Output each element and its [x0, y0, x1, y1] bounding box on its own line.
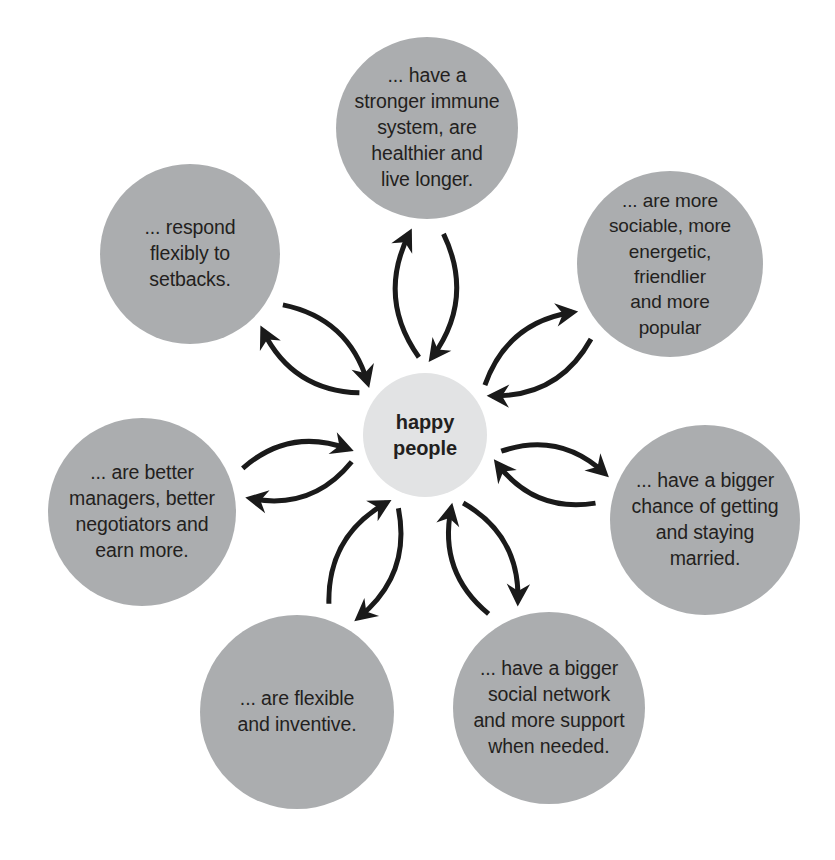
diagram-canvas: ... have a stronger immune system, are h…	[0, 0, 835, 860]
arrow-outward	[395, 234, 419, 358]
node-label: ... are better managers, better negotiat…	[55, 460, 229, 564]
hub-label: happy people	[385, 409, 465, 461]
node-managers-earnings[interactable]: ... are better managers, better negotiat…	[48, 418, 236, 606]
arrow-inward	[243, 441, 349, 468]
node-label: ... are more sociable, more energetic, f…	[577, 188, 763, 340]
node-immune-system[interactable]: ... have a stronger immune system, are h…	[336, 37, 518, 219]
node-label: ... are flexible and inventive.	[224, 686, 371, 738]
node-flexible-inventive[interactable]: ... are flexible and inventive.	[200, 615, 394, 809]
node-label: ... have a bigger social network and mor…	[459, 656, 638, 760]
arrow-outward	[251, 462, 352, 501]
arrow-outward	[501, 445, 604, 473]
node-marriage[interactable]: ... have a bigger chance of getting and …	[610, 425, 800, 615]
node-label: ... respond flexibly to setbacks.	[130, 215, 249, 293]
arrow-inward	[432, 234, 457, 357]
node-label: ... have a stronger immune system, are h…	[341, 63, 514, 193]
node-social-network[interactable]: ... have a bigger social network and mor…	[453, 612, 645, 804]
arrow-inward	[497, 464, 595, 505]
node-happy-people-hub[interactable]: happy people	[363, 373, 487, 497]
node-label: ... have a bigger chance of getting and …	[618, 468, 793, 572]
arrow-outward	[359, 508, 401, 617]
arrow-outward	[463, 503, 518, 601]
node-sociable[interactable]: ... are more sociable, more energetic, f…	[577, 171, 763, 357]
node-respond-to-setbacks[interactable]: ... respond flexibly to setbacks.	[100, 164, 280, 344]
arrow-inward	[448, 509, 488, 614]
arrow-inward	[329, 503, 387, 604]
